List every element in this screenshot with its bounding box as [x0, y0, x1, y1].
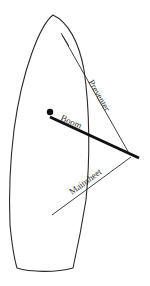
hull-outline	[9, 15, 88, 271]
mainsheet-line	[52, 157, 131, 215]
mast-icon	[47, 109, 53, 115]
preventer-label: Preventer	[86, 78, 112, 113]
sailboat-rigging-diagram: Preventer Boom Mainsheet	[0, 0, 150, 286]
